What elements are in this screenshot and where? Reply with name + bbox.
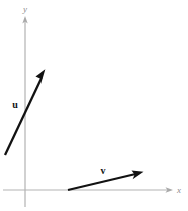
vector-diagram-figure: y x u v [0, 0, 188, 211]
y-axis-label: y [22, 4, 27, 14]
x-axis-label: x [176, 185, 181, 195]
vector-v-shaft [68, 174, 136, 190]
vector-diagram-canvas: y x u v [0, 0, 188, 211]
vector-u-label: u [12, 99, 18, 110]
vector-v-label: v [101, 165, 106, 176]
vector-u-shaft [5, 77, 42, 155]
